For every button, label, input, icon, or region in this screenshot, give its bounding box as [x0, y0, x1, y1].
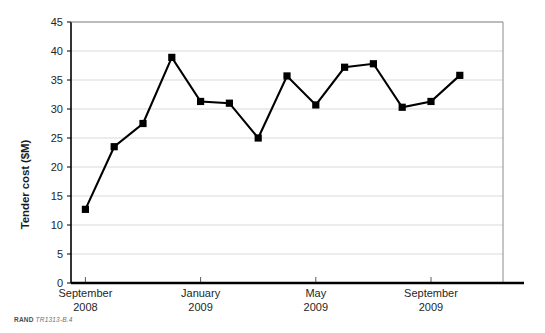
plot-area-background	[71, 22, 503, 283]
x-tick-label-year: 2009	[188, 301, 212, 313]
x-tick-label-month: September	[404, 287, 458, 299]
line-chart: 051015202530354045 September2008January2…	[0, 0, 545, 333]
y-tick-label: 5	[57, 248, 63, 260]
data-point-marker	[456, 72, 463, 79]
data-point-marker	[255, 134, 262, 141]
y-axis-ticks: 051015202530354045	[51, 16, 71, 289]
data-point-marker	[312, 101, 319, 108]
x-tick-label-month: May	[305, 287, 326, 299]
data-point-marker	[111, 143, 118, 150]
x-tick-label-year: 2008	[73, 301, 97, 313]
data-point-marker	[370, 60, 377, 67]
data-point-marker	[341, 64, 348, 71]
figure-container: Tender cost ($M) 051015202530354045 Sept…	[0, 0, 545, 333]
data-point-marker	[197, 98, 204, 105]
y-tick-label: 30	[51, 103, 63, 115]
source-identifier: TR1313-B.4	[36, 316, 73, 323]
y-tick-label: 40	[51, 45, 63, 57]
data-point-marker	[427, 98, 434, 105]
data-point-marker	[82, 206, 89, 213]
data-point-marker	[226, 100, 233, 107]
y-tick-label: 20	[51, 161, 63, 173]
y-tick-label: 45	[51, 16, 63, 28]
x-tick-label-month: January	[181, 287, 221, 299]
x-tick-label-year: 2009	[419, 301, 443, 313]
y-tick-label: 25	[51, 132, 63, 144]
source-organization: RAND	[14, 316, 34, 323]
data-point-marker	[168, 54, 175, 61]
x-axis-tick-labels: September2008January2009May2009September…	[58, 287, 458, 313]
y-tick-label: 35	[51, 74, 63, 86]
data-point-marker	[283, 72, 290, 79]
data-point-marker	[139, 120, 146, 127]
x-tick-label-month: September	[58, 287, 112, 299]
y-tick-label: 10	[51, 219, 63, 231]
data-point-marker	[399, 104, 406, 111]
y-tick-label: 15	[51, 190, 63, 202]
source-note: RAND TR1313-B.4	[14, 316, 73, 323]
x-tick-label-year: 2009	[304, 301, 328, 313]
